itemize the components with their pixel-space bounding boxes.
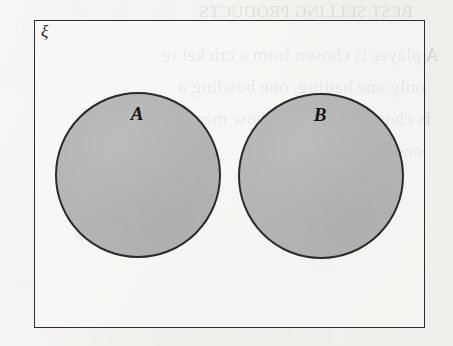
scanned-page: BEST SELLING PRODUCTS A player is chosen…: [0, 0, 453, 346]
set-label-a: A: [122, 104, 152, 123]
universal-set-label: ξ: [41, 23, 48, 40]
set-label-b: B: [305, 105, 335, 124]
bleed-through-line-top: BEST SELLING PRODUCTS: [199, 2, 413, 22]
